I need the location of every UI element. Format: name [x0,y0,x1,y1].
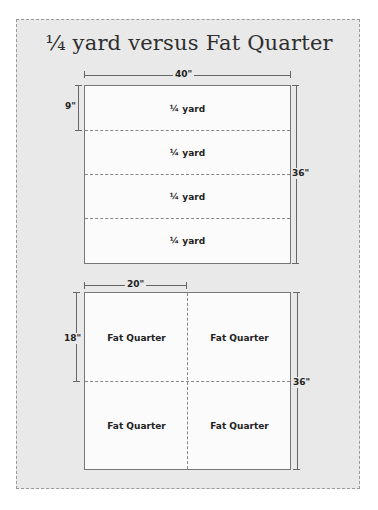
row-height-dimension-line [78,85,79,130]
height-dimension-label: 18" [62,333,83,344]
dim-tick [290,71,291,78]
total-height-dimension-label: 36" [291,377,312,388]
dim-tick [73,381,80,382]
dim-tick [75,130,82,131]
fat-quarter-cell: Fat Quarter [188,382,291,470]
quarter-yard-row: ¼ yard [85,131,290,175]
row-height-dimension-label: 9" [63,101,78,112]
dim-tick [292,263,299,264]
fat-quarter-cell: Fat Quarter [85,382,188,470]
width-dimension-label: 20" [125,279,146,290]
height-dimension-label: 36" [290,168,311,179]
fabric-fat-quarter-rect: Fat Quarter Fat Quarter Fat Quarter Fat … [84,292,291,470]
fat-quarter-cell: Fat Quarter [85,293,188,382]
dim-tick [186,282,187,289]
fat-quarter-cell: Fat Quarter [188,293,291,382]
quarter-yard-row: ¼ yard [85,86,290,131]
fabric-yard-rect: ¼ yard ¼ yard ¼ yard ¼ yard [84,85,291,264]
quarter-yard-row: ¼ yard [85,219,290,263]
quarter-yard-row: ¼ yard [85,175,290,219]
dim-tick [293,469,300,470]
diagram-title: ¼ yard versus Fat Quarter [0,31,378,55]
width-dimension-label: 40" [173,69,194,80]
